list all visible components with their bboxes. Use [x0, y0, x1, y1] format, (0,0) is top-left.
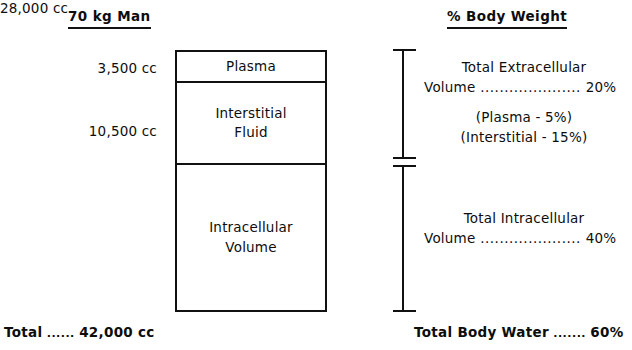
compartment-intracellular-label-line2: Volume [225, 238, 276, 257]
compartment-intracellular-label-line1: Intracellular [209, 218, 293, 237]
total-body-water-prefix: Total Body Water [414, 324, 549, 340]
total-volume-value: 42,000 cc [79, 324, 155, 340]
volume-label-interstitial: 10,500 cc [89, 123, 157, 139]
total-body-water-value: 60% [590, 324, 623, 340]
description-intracellular-leader: ..................... [475, 230, 585, 246]
compartment-plasma: Plasma [177, 52, 325, 83]
total-volume-leader: ...... [42, 327, 79, 340]
total-volume-prefix: Total [4, 324, 42, 340]
compartment-intracellular: Intracellular Volume [177, 165, 325, 310]
bracket-extracellular [402, 50, 404, 158]
volume-label-intracellular: 28,000 cc [0, 0, 68, 16]
description-extracellular-line1: Total Extracellular [424, 57, 624, 77]
compartment-box: Plasma Interstitial Fluid Intracellular … [175, 50, 327, 312]
description-extracellular-leader: ..................... [475, 79, 585, 95]
description-parenthetical: (Plasma - 5%) (Interstitial - 15%) [424, 107, 624, 148]
description-extracellular-line2: Volume ..................... 20% [424, 77, 624, 97]
description-intracellular: Total Intracellular Volume .............… [424, 208, 624, 249]
description-intracellular-prefix: Volume [424, 230, 475, 246]
compartment-interstitial-label-line1: Interstitial [215, 104, 286, 123]
description-intracellular-value: 40% [586, 230, 617, 246]
heading-percent-body-weight: % Body Weight [447, 8, 567, 29]
description-extracellular-value: 20% [586, 79, 617, 95]
total-volume-row: Total ...... 42,000 cc [4, 324, 155, 340]
compartment-plasma-label: Plasma [226, 57, 276, 76]
total-body-water-leader: ....... [549, 327, 590, 340]
total-body-water-row: Total Body Water ....... 60% [414, 324, 624, 340]
volume-label-plasma: 3,500 cc [98, 60, 157, 76]
description-parenthetical-interstitial: (Interstitial - 15%) [424, 127, 624, 147]
description-extracellular: Total Extracellular Volume .............… [424, 57, 624, 98]
compartment-interstitial: Interstitial Fluid [177, 83, 325, 165]
description-extracellular-prefix: Volume [424, 79, 475, 95]
heading-70-kg-man: 70 kg Man [68, 8, 151, 29]
compartment-interstitial-label-line2: Fluid [234, 123, 267, 142]
description-parenthetical-plasma: (Plasma - 5%) [424, 107, 624, 127]
bracket-intracellular [402, 166, 404, 311]
description-intracellular-line2: Volume ..................... 40% [424, 228, 624, 248]
description-intracellular-line1: Total Intracellular [424, 208, 624, 228]
body-fluid-compartment-diagram: 70 kg Man % Body Weight 3,500 cc 10,500 … [0, 0, 632, 350]
